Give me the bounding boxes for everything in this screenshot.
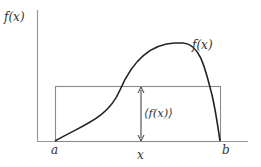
left-bound-label: a bbox=[51, 143, 58, 157]
function-curve bbox=[55, 43, 220, 141]
y-axis-label: f(x) bbox=[3, 10, 25, 24]
mean-value-diagram: f(x) f(x) ⟨f(x)⟩ a x b bbox=[0, 0, 261, 167]
mean-value-rectangle bbox=[56, 87, 221, 142]
curve-label: f(x) bbox=[191, 38, 213, 52]
right-bound-label: b bbox=[222, 143, 230, 157]
x-axis-label: x bbox=[137, 148, 144, 162]
mean-label: ⟨f(x)⟩ bbox=[144, 106, 173, 120]
